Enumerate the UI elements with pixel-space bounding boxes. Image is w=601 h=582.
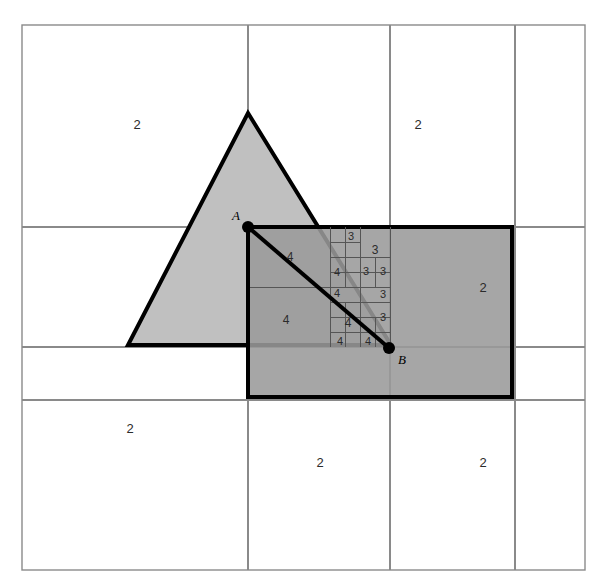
rectangle-shape bbox=[248, 227, 512, 397]
point-marker-B bbox=[383, 342, 395, 354]
point-marker-A bbox=[242, 221, 254, 233]
quadtree-diagram bbox=[0, 0, 601, 582]
figure-canvas: 2222224433433433444 AB bbox=[0, 0, 601, 582]
